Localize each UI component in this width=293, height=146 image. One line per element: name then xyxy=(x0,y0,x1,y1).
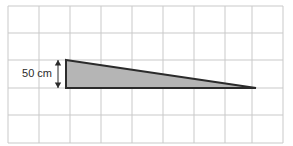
figure-canvas: 50 cm xyxy=(0,0,293,146)
dimension-label: 50 cm xyxy=(22,67,52,79)
figure-drawing: 50 cm xyxy=(0,0,293,146)
